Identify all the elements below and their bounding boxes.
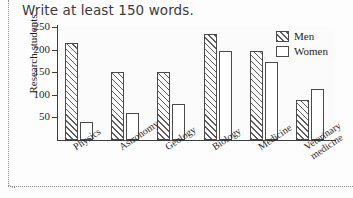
legend-swatch-men-icon [276,31,289,42]
y-axis-line [57,25,58,141]
bar-veterinary-medicine-men [296,100,309,140]
legend-item-women: Women [276,45,328,57]
y-tick-label-200: 200 [20,43,50,55]
y-tick-100 [52,95,58,96]
legend-item-men: Men [276,30,328,42]
bar-geology-men [157,72,170,140]
bar-biology-women [219,51,232,140]
bar-physics-men [65,43,78,140]
bar-medicine-men [250,51,263,140]
y-tick-200 [52,50,58,51]
y-tick-label-50: 50 [20,110,50,122]
worksheet-page: Write at least 150 words. Research stude… [0,0,353,198]
legend-label-women: Women [294,45,328,57]
legend-label-men: Men [294,30,314,42]
bar-biology-men [204,34,217,140]
y-tick-label-100: 100 [20,88,50,100]
y-tick-label-150: 150 [20,65,50,77]
bar-astronomy-men [111,72,124,140]
y-tick-150 [52,72,58,73]
y-tick-50 [52,117,58,118]
chart-legend: Men Women [276,30,328,60]
y-tick-label-250: 250 [20,20,50,32]
y-tick-250 [52,27,58,28]
legend-swatch-women-icon [276,46,289,57]
x-axis-line [57,140,336,141]
bar-chart: Research students 50100150200250 Physics… [0,0,353,198]
